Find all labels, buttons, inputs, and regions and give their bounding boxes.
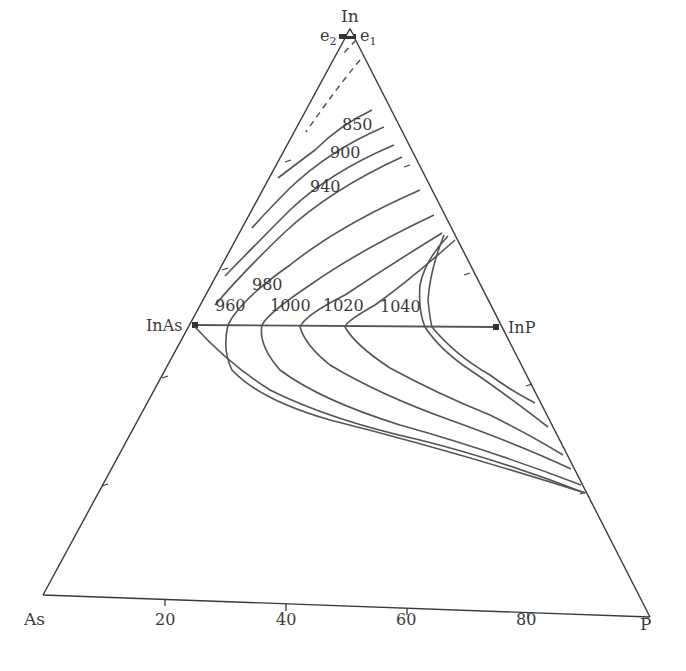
isotherm-label-1040: 1040	[380, 297, 421, 316]
isotherm-label-980: 980	[252, 275, 283, 294]
compound-label-inas: InAs	[146, 316, 182, 335]
vertex-label-in: In	[341, 6, 359, 26]
ternary-diagram: In As P InAs InP e2 e1 20 40 60 80 850 9…	[0, 0, 686, 671]
isotherm-label-900: 900	[330, 143, 361, 162]
edge-as-p	[43, 595, 650, 617]
isotherm-label-1000: 1000	[270, 296, 311, 315]
isotherm-1020	[345, 240, 563, 455]
isotherm-1000	[300, 233, 571, 469]
compound-label-inp: InP	[508, 318, 536, 337]
axis-tick-label-80: 80	[516, 610, 536, 629]
vertex-label-as: As	[23, 609, 45, 629]
isotherm-940	[215, 157, 402, 305]
axis-tick-label-60: 60	[396, 610, 416, 629]
axis-tick-label-40: 40	[276, 610, 296, 629]
right-tick-1	[404, 165, 410, 167]
isotherm-label-940: 940	[310, 177, 341, 196]
axis-tick-label-20: 20	[155, 610, 175, 629]
eutectic-label-e2: e2	[320, 26, 336, 48]
inp-point	[493, 324, 499, 330]
right-tick-2	[464, 273, 470, 275]
left-tick-2	[222, 268, 228, 270]
vertex-label-p: P	[640, 614, 651, 634]
isotherm-960	[226, 190, 585, 493]
isotherm-label-1020: 1020	[323, 296, 364, 315]
edge-in-p	[350, 29, 650, 617]
left-tick-1	[285, 160, 291, 162]
isotherm-label-960: 960	[215, 296, 246, 315]
isotherm-label-850: 850	[342, 115, 373, 134]
eutectic-label-e1: e1	[360, 26, 376, 48]
lower-isotherms	[195, 235, 585, 493]
left-tick-3	[162, 376, 168, 378]
apex-mark	[346, 29, 354, 36]
